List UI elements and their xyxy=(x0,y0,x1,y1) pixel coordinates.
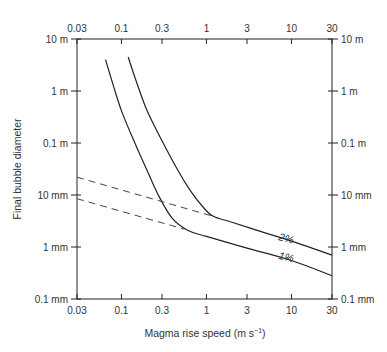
series-label: 1% xyxy=(278,249,296,264)
x-tick-label-bottom: 30 xyxy=(326,305,338,316)
x-tick-label-bottom: 10 xyxy=(286,305,298,316)
series-line-2pct xyxy=(128,57,332,255)
y-tick-label-left: 1 m xyxy=(51,86,68,97)
y-tick-label-right: 1 m xyxy=(341,86,358,97)
y-tick-label-right: 1 mm xyxy=(341,242,366,253)
bubble-diameter-chart: 0.030.030.10.10.30.3113310103030 10 m10 … xyxy=(0,0,387,352)
axes xyxy=(77,39,332,299)
x-axis-title: Magma rise speed (m s−1) xyxy=(144,327,265,339)
plot-frame xyxy=(77,39,332,299)
x-tick-label-bottom: 3 xyxy=(244,305,250,316)
series-line-1pct-extrapolation xyxy=(77,199,184,230)
x-tick-label-top: 0.03 xyxy=(67,23,87,34)
x-tick-label-top: 10 xyxy=(286,23,298,34)
y-tick-label-right: 10 m xyxy=(341,34,363,45)
y-tick-label-left: 10 mm xyxy=(37,190,68,201)
x-tick-label-top: 0.3 xyxy=(155,23,169,34)
x-tick-label-top: 30 xyxy=(326,23,338,34)
y-tick-label-left: 1 mm xyxy=(43,242,68,253)
y-tick-label-left: 0.1 m xyxy=(43,138,68,149)
series-label: 2% xyxy=(277,230,296,246)
y-ticks: 10 m10 m1 m1 m0.1 m0.1 m10 mm10 mm1 mm1 … xyxy=(35,34,375,305)
series-line-2pct-extrapolation xyxy=(77,177,213,216)
y-tick-label-left: 0.1 mm xyxy=(35,294,68,305)
x-tick-label-bottom: 0.1 xyxy=(114,305,128,316)
x-tick-label-bottom: 0.03 xyxy=(67,305,87,316)
x-tick-label-top: 3 xyxy=(244,23,250,34)
y-tick-label-right: 0.1 mm xyxy=(341,294,374,305)
y-tick-label-right: 10 mm xyxy=(341,190,372,201)
x-tick-label-top: 1 xyxy=(204,23,210,34)
x-tick-label-bottom: 0.3 xyxy=(155,305,169,316)
series-group: 2%1% xyxy=(77,57,332,276)
y-axis-title: Final bubble diameter xyxy=(11,118,23,219)
y-tick-label-left: 10 m xyxy=(46,34,68,45)
y-tick-label-right: 0.1 m xyxy=(341,138,366,149)
x-tick-label-top: 0.1 xyxy=(114,23,128,34)
x-tick-label-bottom: 1 xyxy=(204,305,210,316)
